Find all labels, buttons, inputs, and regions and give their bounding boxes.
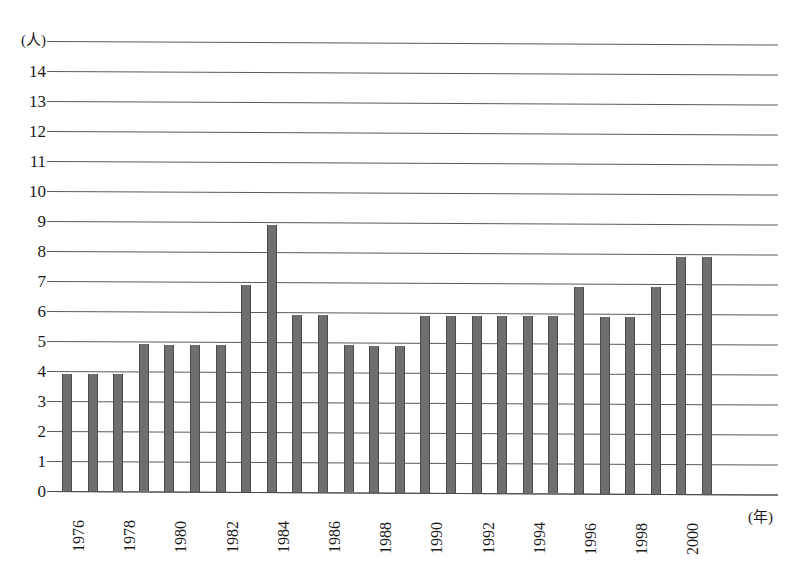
bar-1998 — [625, 317, 635, 494]
x-tick-label-1994: 1994 — [532, 522, 548, 554]
y-tick-label-0: 0 — [6, 483, 46, 500]
bar-1976 — [62, 374, 72, 491]
x-tick-label-2000: 2000 — [685, 523, 701, 555]
x-axis-unit-label: (年) — [748, 510, 773, 525]
y-tick-label-8: 8 — [6, 243, 46, 260]
bar-1983 — [241, 285, 251, 492]
y-tick-label-1: 1 — [6, 453, 46, 470]
bar-1985 — [292, 315, 302, 492]
y-tick-label-14: 14 — [6, 63, 46, 80]
bar-1981 — [190, 345, 200, 492]
bar-1995 — [548, 316, 558, 493]
bar-1982 — [216, 345, 226, 492]
bar-1988 — [369, 346, 379, 493]
bar-1994 — [523, 316, 533, 493]
y-tick-label-5: 5 — [6, 333, 46, 350]
bar-1979 — [139, 344, 149, 491]
y-tick-label-13: 13 — [6, 93, 46, 110]
y-axis-unit-label: (人) — [2, 33, 46, 48]
bar-1990 — [420, 316, 430, 493]
x-tick-label-1988: 1988 — [378, 522, 394, 554]
bar-1997 — [600, 317, 610, 494]
x-tick-label-1984: 1984 — [276, 521, 292, 553]
bar-1993 — [497, 316, 507, 493]
plot-area — [47, 41, 778, 491]
x-tick-label-1990: 1990 — [429, 522, 445, 554]
bar-1999 — [651, 287, 661, 494]
y-tick-label-9: 9 — [6, 213, 46, 230]
bar-2001 — [702, 257, 712, 494]
bar-1978 — [113, 374, 123, 491]
y-tick-label-7: 7 — [6, 273, 46, 290]
y-tick-label-12: 12 — [6, 123, 46, 140]
y-tick-label-3: 3 — [6, 393, 46, 410]
x-axis-labels: (年) 197619781980198219841986198819901992… — [47, 494, 778, 569]
x-tick-label-1976: 1976 — [71, 520, 87, 552]
bar-2000 — [676, 257, 686, 494]
y-tick-label-4: 4 — [6, 363, 46, 380]
x-tick-label-1978: 1978 — [122, 520, 138, 552]
bars-group — [47, 41, 778, 491]
y-tick-label-10: 10 — [6, 183, 46, 200]
bar-1977 — [88, 374, 98, 491]
y-axis-labels: (人) 14 13 12 11 10 9 8 7 6 5 4 3 2 1 0 — [0, 41, 46, 491]
y-tick-label-11: 11 — [6, 153, 46, 170]
x-tick-label-1992: 1992 — [481, 522, 497, 554]
bar-1989 — [395, 346, 405, 493]
x-tick-label-1986: 1986 — [327, 521, 343, 553]
bar-1980 — [164, 345, 174, 492]
x-tick-label-1980: 1980 — [173, 521, 189, 553]
x-tick-label-1996: 1996 — [583, 523, 599, 555]
x-tick-label-1982: 1982 — [225, 521, 241, 553]
bar-chart-figure: (人) 14 13 12 11 10 9 8 7 6 5 4 3 2 1 0 (… — [0, 0, 804, 575]
bar-1991 — [446, 316, 456, 493]
bar-1996 — [574, 287, 584, 494]
y-tick-label-6: 6 — [6, 303, 46, 320]
y-tick-label-2: 2 — [6, 423, 46, 440]
bar-1984 — [267, 225, 277, 492]
bar-1987 — [344, 345, 354, 492]
bar-1992 — [472, 316, 482, 493]
x-tick-label-1998: 1998 — [634, 523, 650, 555]
bar-1986 — [318, 315, 328, 492]
